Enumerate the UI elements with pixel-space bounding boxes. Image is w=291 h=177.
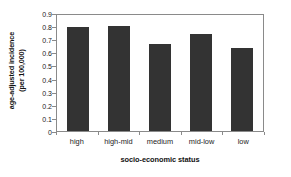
- x-axis-tick-label: mid-low: [181, 137, 223, 149]
- bar: [67, 27, 89, 131]
- y-axis-tick-label: 0.1: [30, 115, 52, 122]
- bar-chart-figure: age-adjusted incidence (per 100,000) 0.9…: [0, 0, 291, 177]
- y-axis-tick-label: 0.3: [30, 89, 52, 96]
- x-axis-tick-mark: [98, 132, 99, 135]
- y-axis-tick-label: 0.2: [30, 102, 52, 109]
- y-axis-title-line-2: (per 100,000): [17, 31, 27, 108]
- x-axis-tick-label: low: [222, 137, 264, 149]
- y-axis-title: age-adjusted incidence (per 100,000): [0, 0, 34, 140]
- y-axis-tick-label: 0: [30, 129, 52, 136]
- y-axis-tick-label: 0.4: [30, 76, 52, 83]
- x-axis-tick-mark: [56, 132, 57, 135]
- y-axis-tick-label: 0.6: [30, 50, 52, 57]
- x-axis-tick-mark: [139, 132, 140, 135]
- y-axis-tick-label: 0.8: [30, 24, 52, 31]
- x-axis-tick-marks: [56, 132, 264, 136]
- x-axis-tick-label: high: [56, 137, 98, 149]
- y-axis-tick-label: 0.7: [30, 37, 52, 44]
- x-axis-tick-mark: [222, 132, 223, 135]
- bar-slot: [139, 15, 180, 131]
- x-axis-title: socio-economic status: [56, 155, 264, 164]
- x-axis-tick-label: high-mid: [98, 137, 140, 149]
- x-axis-tick-mark: [264, 132, 265, 135]
- x-axis-tick-label: medium: [139, 137, 181, 149]
- y-axis-title-line-1: age-adjusted incidence: [8, 31, 18, 108]
- y-axis-tick-label: 0.9: [30, 11, 52, 18]
- bar: [231, 48, 253, 131]
- bar-slot: [98, 15, 139, 131]
- x-axis-tick-mark: [181, 132, 182, 135]
- y-axis-tick-label: 0.5: [30, 63, 52, 70]
- plot-area: [56, 14, 264, 132]
- bar: [108, 26, 130, 131]
- bars-layer: [57, 15, 263, 131]
- x-axis-tick-labels: highhigh-midmediummid-lowlow: [56, 137, 264, 149]
- bar: [190, 34, 212, 131]
- bar: [149, 44, 171, 131]
- bar-slot: [181, 15, 222, 131]
- y-axis-tick-labels: 0.90.80.70.60.50.40.30.20.10: [30, 14, 52, 132]
- bar-slot: [222, 15, 263, 131]
- bar-slot: [57, 15, 98, 131]
